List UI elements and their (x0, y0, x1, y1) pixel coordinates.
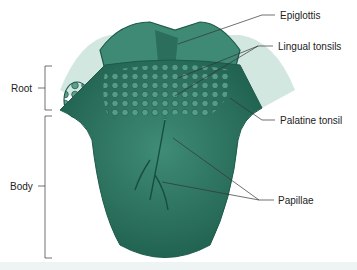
label-epiglottis: Epiglottis (280, 10, 321, 22)
bottom-border (0, 262, 357, 270)
tongue-diagram: Epiglottis Lingual tonsils Palatine tons… (0, 0, 357, 270)
label-papillae: Papillae (278, 195, 314, 207)
label-palatine-tonsil: Palatine tonsil (280, 115, 342, 127)
label-body: Body (10, 181, 33, 193)
label-root: Root (11, 83, 32, 95)
label-lingual-tonsils: Lingual tonsils (278, 41, 341, 53)
